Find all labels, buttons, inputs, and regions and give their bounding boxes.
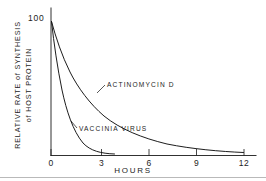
y-axis-title: RELATIVE RATE of SYNTHESIS of HOST PROTE…: [12, 10, 34, 160]
bottom-divider: [0, 177, 266, 178]
series-label-vaccinia-virus: VACCINIA VIRUS: [79, 125, 147, 132]
plot-area: [0, 0, 266, 181]
y-axis-title-line-2: of HOST PROTEIN: [23, 10, 34, 160]
figure-container: RELATIVE RATE of SYNTHESIS of HOST PROTE…: [0, 0, 266, 181]
series-label-actinomycin-d: ACTINOMYCIN D: [107, 81, 175, 88]
y-axis-tick-label-100: 100: [28, 14, 45, 23]
x-axis-title: HOURS: [0, 167, 266, 175]
curve-vaccinia-virus: [52, 22, 115, 155]
actinomycin-leader: [97, 85, 105, 93]
y-axis-title-line-1: RELATIVE RATE of SYNTHESIS: [12, 10, 23, 160]
